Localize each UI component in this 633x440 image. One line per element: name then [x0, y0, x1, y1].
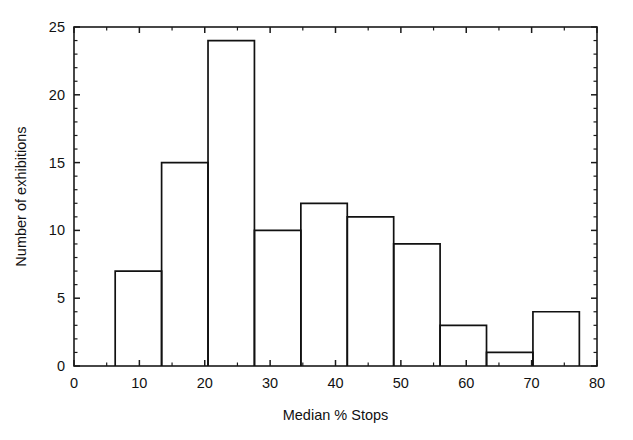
x-axis-tick-label: 10	[131, 375, 147, 391]
x-axis-tick-label: 30	[262, 375, 278, 391]
x-axis-tick-label: 60	[458, 375, 474, 391]
y-axis-tick-label: 15	[49, 155, 65, 171]
histogram-plot: 010203040506070800510152025Median % Stop…	[0, 0, 633, 440]
histogram-bar	[533, 312, 579, 366]
y-axis-title: Number of exhibitions	[13, 126, 29, 266]
y-axis-tick-label: 10	[49, 222, 65, 238]
histogram-bar	[394, 244, 440, 366]
histogram-bar	[487, 352, 533, 366]
histogram-bar	[347, 217, 393, 366]
y-axis-tick-label: 5	[57, 290, 65, 306]
x-axis-tick-label: 20	[197, 375, 213, 391]
x-axis-tick-label: 80	[589, 375, 605, 391]
histogram-bar	[162, 163, 208, 366]
y-axis-tick-label: 25	[49, 19, 65, 35]
y-axis-tick-label: 0	[57, 358, 65, 374]
plot-frame	[74, 27, 597, 366]
histogram-bar	[115, 271, 161, 366]
histogram-bar	[301, 203, 347, 366]
x-axis-tick-label: 70	[524, 375, 540, 391]
x-axis-tick-label: 0	[70, 375, 78, 391]
histogram-bar	[208, 41, 254, 366]
histogram-figure: 010203040506070800510152025Median % Stop…	[0, 0, 633, 440]
x-axis-tick-label: 40	[327, 375, 343, 391]
histogram-bar	[254, 230, 300, 366]
x-axis-title: Median % Stops	[283, 407, 389, 423]
x-axis-tick-label: 50	[393, 375, 409, 391]
y-axis-tick-label: 20	[49, 87, 65, 103]
histogram-bar	[440, 325, 486, 366]
